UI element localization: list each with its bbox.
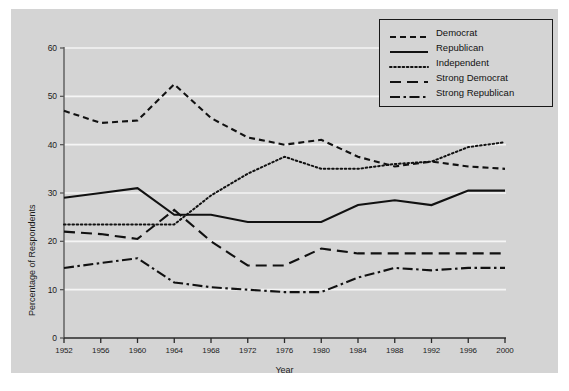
legend-item-label: Strong Democrat bbox=[436, 72, 508, 83]
series-line-independent bbox=[64, 142, 505, 224]
y-tick-label: 20 bbox=[32, 236, 57, 246]
figure-canvas: Percentage of Respondents Year DemocratR… bbox=[0, 0, 569, 391]
legend-item-label: Strong Republican bbox=[436, 87, 514, 98]
chart-panel: Percentage of Respondents Year DemocratR… bbox=[11, 9, 558, 373]
legend-item-label: Independent bbox=[436, 57, 489, 68]
x-tick-label: 1988 bbox=[381, 346, 409, 355]
y-tick-label: 10 bbox=[32, 285, 57, 295]
y-tick-label: 0 bbox=[32, 333, 57, 343]
x-tick-label: 1960 bbox=[124, 346, 152, 355]
chart-legend: DemocratRepublicanIndependentStrong Demo… bbox=[379, 19, 553, 107]
y-axis-title: Percentage of Respondents bbox=[27, 204, 37, 316]
series-line-strong-republican bbox=[64, 258, 505, 292]
legend-item-republican[interactable]: Republican bbox=[389, 40, 552, 55]
y-tick-label: 50 bbox=[32, 91, 57, 101]
x-tick-label: 1964 bbox=[160, 346, 188, 355]
x-tick-label: 2000 bbox=[491, 346, 519, 355]
x-tick-label: 1968 bbox=[197, 346, 225, 355]
series-line-strong-democrat bbox=[64, 210, 505, 266]
legend-item-strong-republican[interactable]: Strong Republican bbox=[389, 85, 552, 100]
x-tick-label: 1984 bbox=[344, 346, 372, 355]
x-tick-label: 1972 bbox=[234, 346, 262, 355]
legend-line-sample-icon bbox=[389, 43, 429, 53]
x-tick-label: 1980 bbox=[307, 346, 335, 355]
legend-line-sample-icon bbox=[389, 58, 429, 68]
legend-item-independent[interactable]: Independent bbox=[389, 55, 552, 70]
legend-item-strong-democrat[interactable]: Strong Democrat bbox=[389, 70, 552, 85]
legend-item-democrat[interactable]: Democrat bbox=[389, 25, 552, 40]
y-tick-label: 60 bbox=[32, 43, 57, 53]
x-tick-label: 1992 bbox=[418, 346, 446, 355]
legend-line-sample-icon bbox=[389, 88, 429, 98]
legend-item-label: Republican bbox=[436, 42, 484, 53]
x-tick-label: 1996 bbox=[454, 346, 482, 355]
legend-line-sample-icon bbox=[389, 28, 429, 38]
x-tick-label: 1956 bbox=[87, 346, 115, 355]
y-tick-label: 40 bbox=[32, 140, 57, 150]
x-tick-label: 1976 bbox=[271, 346, 299, 355]
legend-line-sample-icon bbox=[389, 73, 429, 83]
y-tick-label: 30 bbox=[32, 188, 57, 198]
x-axis-title: Year bbox=[64, 365, 505, 375]
x-tick-label: 1952 bbox=[50, 346, 78, 355]
legend-item-label: Democrat bbox=[436, 27, 477, 38]
